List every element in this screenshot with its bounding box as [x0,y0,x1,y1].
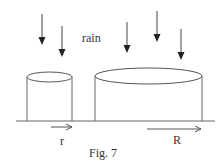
rain-label: rain [82,31,101,45]
rain-arrow-icon [178,29,185,60]
large-radius-label: R [173,133,181,147]
rain-arrow-icon [39,14,46,45]
rain-arrow-icon [154,11,161,42]
large-cylinder [95,68,202,121]
large-radius-arrow-icon [147,126,201,132]
small-cylinder [27,72,72,121]
rain-arrows [39,11,185,60]
small-radius-label: r [60,134,64,148]
rain-arrow-icon [124,22,131,53]
rain-arrow-icon [59,26,66,57]
rain-gauge-diagram: rain r R Fig. 7 [0,0,221,166]
figure-caption: Fig. 7 [89,146,117,160]
small-radius-arrow-icon [51,124,72,130]
